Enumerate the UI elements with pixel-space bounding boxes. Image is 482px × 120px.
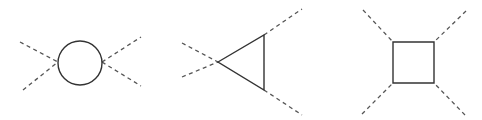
bubble-external-line-1 xyxy=(20,42,58,62)
bubble-external-line-2 xyxy=(23,62,58,90)
bubble-loop xyxy=(58,41,102,85)
bubble-external-line-3 xyxy=(102,37,141,62)
triangle-loop xyxy=(218,35,264,90)
triangle-external-line-1 xyxy=(182,43,218,62)
triangle-external-line-3 xyxy=(264,9,302,35)
box-external-line-4 xyxy=(434,83,465,115)
triangle-external-line-4 xyxy=(264,90,302,115)
box-external-line-2 xyxy=(434,11,466,42)
bubble-diagram xyxy=(20,37,141,90)
triangle-external-line-2 xyxy=(182,62,218,77)
feynman-diagrams xyxy=(0,0,482,120)
box-external-line-3 xyxy=(362,83,393,114)
box-diagram xyxy=(362,10,466,115)
bubble-external-line-4 xyxy=(102,62,141,86)
box-loop xyxy=(393,42,434,83)
box-external-line-1 xyxy=(363,10,393,42)
triangle-diagram xyxy=(182,9,302,115)
